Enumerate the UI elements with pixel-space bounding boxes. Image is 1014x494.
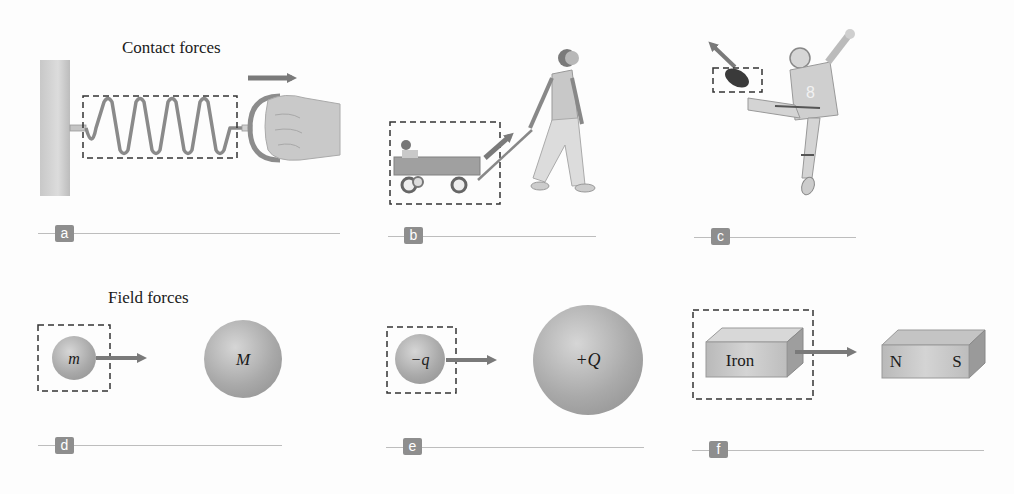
panel-e-rule xyxy=(386,447,644,448)
player-kicking-leg xyxy=(748,98,800,118)
small-mass-label: m xyxy=(68,350,80,367)
panel-a-illustration xyxy=(40,60,340,196)
wagon-body xyxy=(394,157,480,175)
force-arrow-c xyxy=(712,45,735,67)
player-standing-leg xyxy=(802,118,820,178)
large-mass-label: M xyxy=(235,350,251,369)
small-charge-label: −q xyxy=(411,351,430,369)
panel-label-b: b xyxy=(404,227,423,244)
large-charge-label: +Q xyxy=(575,350,600,370)
force-illustrations: 8 m M −q +Q Iron N S xyxy=(0,0,1014,494)
panel-a-rule xyxy=(38,233,340,234)
girl-pants xyxy=(533,118,585,186)
player-helmet xyxy=(790,48,810,68)
spring xyxy=(86,99,242,154)
panel-b-illustration xyxy=(390,49,595,204)
panel-c-illustration: 8 xyxy=(712,29,855,197)
panel-f-illustration: Iron N S xyxy=(693,310,985,399)
panel-label-c: c xyxy=(711,228,730,245)
panel-f-rule xyxy=(692,450,984,451)
wagon-wheel xyxy=(452,178,466,192)
panel-d-illustration: m M xyxy=(38,320,282,398)
panel-d-rule xyxy=(38,445,282,446)
panel-e-illustration: −q +Q xyxy=(387,305,643,415)
panel-label-a: a xyxy=(55,225,74,242)
iron-label: Iron xyxy=(726,351,755,370)
wall xyxy=(40,60,70,196)
svg-text:8: 8 xyxy=(806,84,815,101)
panel-label-e: e xyxy=(403,438,422,455)
child-head xyxy=(401,140,411,150)
magnet-north-label: N xyxy=(890,352,902,371)
magnet-south-label: S xyxy=(952,352,961,371)
panel-label-d: d xyxy=(55,437,74,454)
fist xyxy=(265,95,340,160)
panel-label-f: f xyxy=(709,441,728,458)
